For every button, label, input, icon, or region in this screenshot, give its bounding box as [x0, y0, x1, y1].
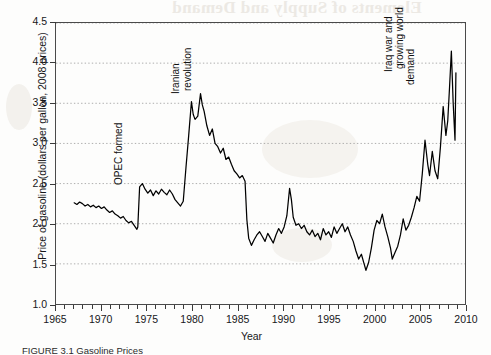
x-tick	[128, 305, 129, 309]
y-tick-label: 1.0	[13, 298, 47, 310]
x-tick-label: 1970	[79, 313, 123, 325]
x-tick-label: 1975	[124, 313, 168, 325]
x-tick	[411, 305, 412, 309]
x-tick	[64, 305, 65, 309]
y-tick	[50, 184, 56, 185]
x-tick	[229, 305, 230, 309]
y-tick-label: 3.0	[13, 136, 47, 148]
x-tick-label: 1980	[170, 313, 214, 325]
x-tick-label: 1965	[33, 313, 77, 325]
y-tick-label: 2.5	[13, 177, 47, 189]
y-tick	[50, 265, 56, 266]
x-tick	[219, 305, 220, 309]
x-tick	[302, 305, 303, 309]
y-tick	[50, 22, 56, 23]
x-tick	[247, 305, 248, 309]
x-tick	[201, 305, 202, 309]
x-tick	[146, 305, 147, 311]
annotation-iraq2: growing world	[394, 8, 405, 70]
x-tick	[82, 305, 83, 309]
x-tick-label: 1985	[216, 313, 260, 325]
x-tick	[274, 305, 275, 309]
x-tick	[329, 305, 330, 311]
x-tick	[174, 305, 175, 309]
x-tick-label: 2000	[353, 313, 397, 325]
x-axis-title: Year	[0, 330, 491, 342]
x-tick	[192, 305, 193, 311]
x-tick	[155, 305, 156, 309]
x-tick-label: 2005	[398, 313, 442, 325]
y-tick	[50, 224, 56, 225]
x-tick	[101, 305, 102, 311]
annotation-iran2: revolution	[182, 48, 193, 91]
x-tick	[384, 305, 385, 309]
x-tick	[55, 305, 56, 311]
x-tick	[256, 305, 257, 309]
x-tick	[347, 305, 348, 309]
x-tick-label: 1990	[261, 313, 305, 325]
x-tick	[311, 305, 312, 309]
x-tick	[265, 305, 266, 309]
annotation-iran1: Iranian	[170, 63, 181, 94]
x-tick	[356, 305, 357, 309]
x-tick	[429, 305, 430, 309]
x-tick	[420, 305, 421, 311]
y-tick-label: 2.0	[13, 217, 47, 229]
x-tick	[393, 305, 394, 309]
x-tick	[92, 305, 93, 309]
annotation-opec: OPEC formed	[113, 123, 124, 185]
x-tick	[73, 305, 74, 309]
annotation-iraq1: Iraq war and	[383, 16, 394, 72]
annotation-iraq3: demand	[405, 49, 416, 85]
x-tick	[292, 305, 293, 309]
x-tick	[439, 305, 440, 309]
x-tick	[466, 305, 467, 311]
x-tick-label: 2010	[444, 313, 488, 325]
x-tick-label: 1995	[307, 313, 351, 325]
x-tick	[320, 305, 321, 309]
x-tick	[210, 305, 211, 309]
x-tick	[338, 305, 339, 309]
y-tick-label: 4.5	[13, 15, 47, 27]
y-tick	[50, 143, 56, 144]
y-tick	[50, 62, 56, 63]
x-tick	[165, 305, 166, 309]
y-tick-label: 4.0	[13, 55, 47, 67]
x-tick	[375, 305, 376, 311]
y-tick	[50, 103, 56, 104]
y-tick-label: 1.5	[13, 258, 47, 270]
page-bleed-through-text: Elements of Supply and Demand	[172, 0, 422, 18]
x-tick	[183, 305, 184, 309]
figure-gasoline-prices: Elements of Supply and Demand Price of g…	[0, 0, 491, 355]
x-tick	[448, 305, 449, 309]
x-tick	[283, 305, 284, 311]
x-tick	[119, 305, 120, 309]
y-tick-label: 3.5	[13, 96, 47, 108]
x-tick	[457, 305, 458, 309]
x-tick	[366, 305, 367, 309]
x-tick	[137, 305, 138, 309]
x-tick	[238, 305, 239, 311]
x-tick	[110, 305, 111, 309]
figure-caption: FIGURE 3.1 Gasoline Prices	[22, 345, 143, 355]
x-tick	[402, 305, 403, 309]
